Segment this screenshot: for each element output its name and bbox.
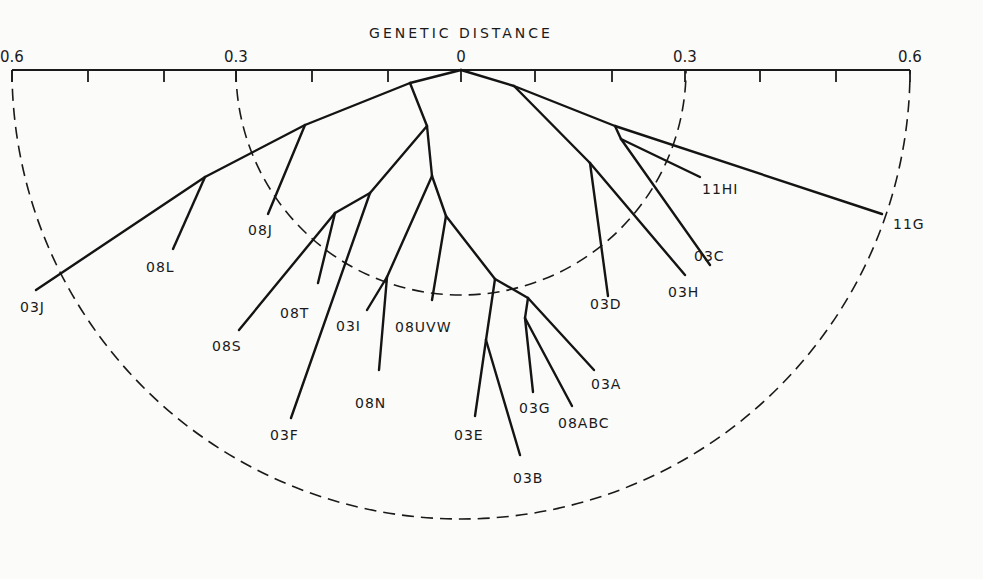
tick-label: 0.6 bbox=[0, 48, 24, 66]
leaf-label: 03B bbox=[513, 470, 543, 486]
leaf-label: 08T bbox=[280, 305, 309, 321]
branch bbox=[410, 70, 461, 83]
branch bbox=[387, 176, 432, 277]
branch bbox=[525, 298, 528, 318]
leaf-label: 03I bbox=[336, 318, 361, 334]
leaf-label: 03A bbox=[591, 376, 621, 392]
leaf-branch bbox=[379, 277, 387, 370]
leaf-label: 03H bbox=[668, 284, 699, 300]
leaf-label: 03E bbox=[454, 427, 484, 443]
leaf-branch bbox=[528, 298, 594, 370]
tick-label: 0.3 bbox=[673, 48, 697, 66]
leaf-label: 03F bbox=[270, 427, 299, 443]
tick-label: 0.6 bbox=[898, 48, 922, 66]
leaf-label: 08S bbox=[212, 338, 242, 354]
leaf-label: 08J bbox=[248, 222, 273, 238]
leaf-label: 08UVW bbox=[395, 319, 451, 335]
leaf-label: 03C bbox=[694, 248, 725, 264]
leaf-branch bbox=[486, 340, 520, 455]
tree-branches bbox=[205, 70, 621, 340]
branch bbox=[305, 83, 410, 125]
leaf-branch bbox=[268, 125, 305, 214]
phylogenetic-tree-diagram: GENETIC DISTANCE 0.60.300.30.6 03J08L08J… bbox=[0, 0, 983, 579]
branch bbox=[410, 83, 427, 126]
leaf-branch bbox=[621, 139, 710, 265]
leaf-branch bbox=[475, 340, 486, 416]
branch bbox=[514, 86, 615, 126]
branch bbox=[370, 126, 427, 193]
branch bbox=[495, 279, 528, 298]
distance-ring-0.3 bbox=[236, 70, 686, 295]
leaf-branch bbox=[432, 216, 446, 300]
leaf-branch bbox=[590, 163, 608, 296]
branch bbox=[205, 125, 305, 177]
leaf-label: 11HI bbox=[702, 181, 738, 197]
branch bbox=[432, 176, 446, 216]
branch bbox=[461, 70, 514, 86]
distance-rings bbox=[12, 70, 910, 519]
leaf-branch bbox=[525, 318, 572, 406]
leaf-label: 03G bbox=[519, 400, 551, 416]
leaf-label: 03D bbox=[590, 296, 622, 312]
branch bbox=[486, 279, 495, 340]
axis-title: GENETIC DISTANCE bbox=[369, 25, 553, 41]
leaf-branch bbox=[621, 139, 700, 177]
branch bbox=[427, 126, 432, 176]
distance-axis: 0.60.300.30.6 bbox=[0, 48, 922, 82]
branch bbox=[446, 216, 495, 279]
branch bbox=[514, 86, 590, 163]
tick-label: 0 bbox=[456, 48, 466, 66]
leaf-label: 08L bbox=[146, 259, 175, 275]
leaf-label: 03J bbox=[20, 299, 45, 315]
leaf-label: 11G bbox=[893, 216, 925, 232]
leaf-label: 08N bbox=[355, 395, 386, 411]
leaf-branch bbox=[590, 163, 685, 275]
tree-leaves: 03J08L08J08S08T03F03I08N08UVW03E03B03G08… bbox=[20, 125, 925, 486]
tick-label: 0.3 bbox=[224, 48, 248, 66]
leaf-label: 08ABC bbox=[558, 415, 610, 431]
leaf-branch bbox=[615, 126, 882, 214]
